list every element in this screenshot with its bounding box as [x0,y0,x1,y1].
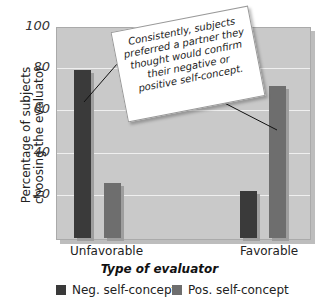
legend-item-neg: Neg. self-concept [56,283,176,297]
category-favorable: Favorable [240,244,298,258]
legend-item-pos: Pos. self-concept [172,283,289,297]
legend-swatch-pos [172,285,182,295]
category-unfavorable: Unfavorable [70,244,143,258]
legend-label-neg: Neg. self-concept [72,283,176,297]
legend-swatch-neg [56,285,66,295]
x-axis-label: Type of evaluator [0,262,319,276]
legend-label-pos: Pos. self-concept [188,283,289,297]
